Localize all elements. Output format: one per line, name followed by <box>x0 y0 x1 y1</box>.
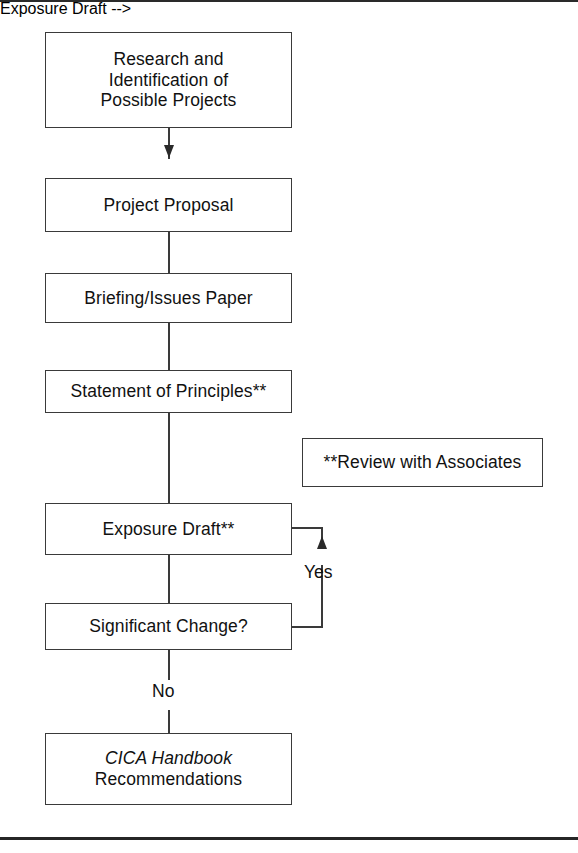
node-research-identification[interactable]: Research and Identification of Possible … <box>45 32 292 128</box>
node-statement-of-principles-label: Statement of Principles** <box>70 381 266 402</box>
connector-loop-bottom-horizontal <box>291 626 323 628</box>
connector-significant-to-no-label <box>168 650 170 680</box>
connector-principles-to-exposure <box>168 413 170 503</box>
node-research-text: Research and Identification of Possible … <box>101 49 237 111</box>
node-project-proposal[interactable]: Project Proposal <box>45 178 292 232</box>
edge-label-no: No <box>152 681 174 702</box>
node-briefing-issues-paper[interactable]: Briefing/Issues Paper <box>45 273 292 323</box>
node-cica-handbook-recommendations[interactable]: CICA Handbook Recommendations <box>45 733 292 805</box>
node-briefing-issues-paper-label: Briefing/Issues Paper <box>84 288 252 309</box>
node-cica-handbook-line-1: CICA Handbook <box>105 748 232 769</box>
node-research-line-2: Identification of <box>101 70 237 91</box>
page-rule-top <box>0 0 578 2</box>
connector-briefing-to-principles <box>168 323 170 370</box>
node-project-proposal-label: Project Proposal <box>104 195 234 216</box>
node-significant-change-label: Significant Change? <box>89 616 248 637</box>
page-rule-bottom <box>0 837 578 840</box>
node-exposure-draft[interactable]: Exposure Draft** <box>45 503 292 555</box>
node-exposure-draft-label: Exposure Draft** <box>103 519 235 540</box>
arrow-down-icon-research-to-proposal <box>164 145 174 158</box>
arrow-up-icon-yes-loop <box>317 536 327 549</box>
node-review-with-associates-label: **Review with Associates <box>324 452 522 473</box>
connector-loop-top-horizontal <box>291 527 323 529</box>
edge-label-yes: Yes <box>304 562 333 583</box>
node-research-line-1: Research and <box>101 49 237 70</box>
node-research-line-3: Possible Projects <box>101 90 237 111</box>
flowchart-canvas: Research and Identification of Possible … <box>0 0 578 853</box>
connector-no-label-to-handbook <box>168 710 170 733</box>
node-statement-of-principles[interactable]: Statement of Principles** <box>45 370 292 413</box>
connector-proposal-to-briefing <box>168 232 170 273</box>
node-cica-handbook-line-2: Recommendations <box>95 769 242 790</box>
node-significant-change[interactable]: Significant Change? <box>45 603 292 650</box>
connector-exposure-to-significant <box>168 555 170 603</box>
node-review-with-associates-note[interactable]: **Review with Associates <box>302 438 543 487</box>
